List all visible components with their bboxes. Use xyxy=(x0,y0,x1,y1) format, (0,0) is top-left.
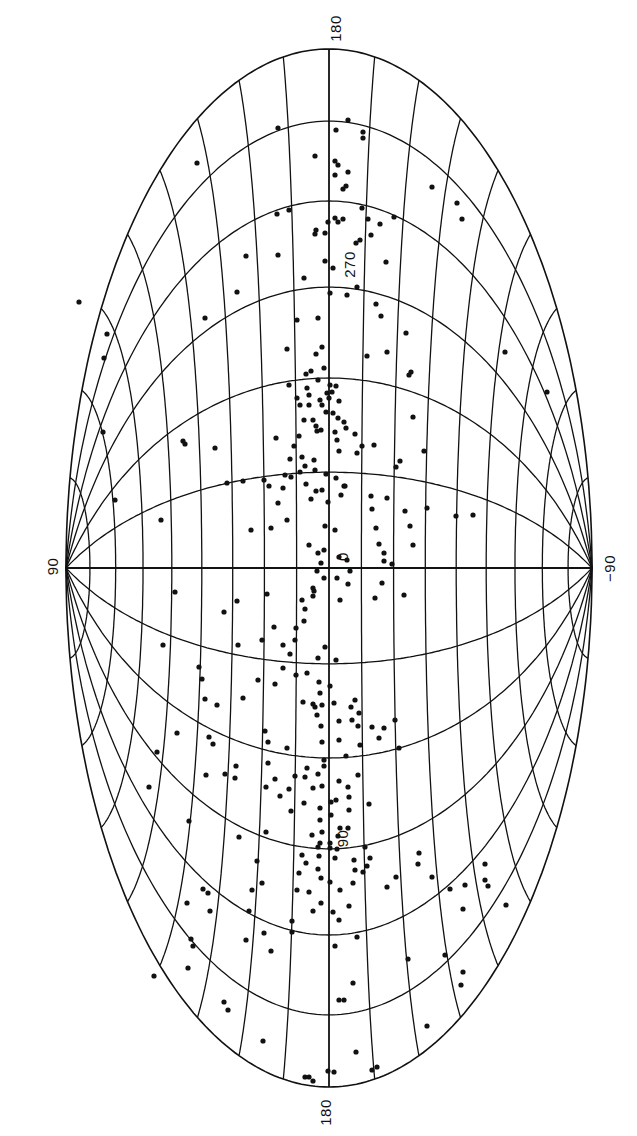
data-point xyxy=(315,550,320,555)
data-point xyxy=(317,817,322,822)
data-point xyxy=(359,443,364,448)
data-point xyxy=(146,784,151,789)
data-point xyxy=(254,858,259,863)
data-point xyxy=(100,429,105,434)
data-point xyxy=(301,800,306,805)
data-point xyxy=(321,547,326,552)
data-point xyxy=(331,700,336,705)
data-point xyxy=(405,956,410,961)
data-point xyxy=(371,442,376,447)
data-point xyxy=(288,474,293,479)
data-point xyxy=(327,683,332,688)
data-point xyxy=(319,402,324,407)
data-point xyxy=(318,875,323,880)
data-point xyxy=(454,200,459,205)
data-point xyxy=(268,948,273,953)
data-point xyxy=(333,127,338,132)
data-point xyxy=(329,389,334,394)
data-point xyxy=(348,704,353,709)
data-point xyxy=(326,395,331,400)
data-point xyxy=(233,763,238,768)
data-point xyxy=(346,794,351,799)
data-point xyxy=(384,884,389,889)
data-point xyxy=(360,869,365,874)
data-point xyxy=(304,670,309,675)
data-point xyxy=(322,523,327,528)
data-point xyxy=(336,718,341,723)
data-point xyxy=(243,253,248,258)
data-point xyxy=(381,725,386,730)
data-point xyxy=(335,415,340,420)
data-point xyxy=(373,525,378,530)
data-point xyxy=(248,527,253,532)
data-point xyxy=(190,943,195,948)
data-point xyxy=(317,690,322,695)
data-point xyxy=(447,886,452,891)
data-point xyxy=(302,463,307,468)
data-point xyxy=(224,480,229,485)
data-point xyxy=(379,580,384,585)
data-point xyxy=(346,903,351,908)
data-point xyxy=(297,402,302,407)
data-point xyxy=(206,734,211,739)
data-point xyxy=(188,936,193,941)
data-point xyxy=(236,834,241,839)
data-point xyxy=(302,774,307,779)
data-point xyxy=(174,730,179,735)
data-point xyxy=(327,879,332,884)
data-point xyxy=(212,445,217,450)
data-point xyxy=(316,853,321,858)
data-point xyxy=(319,344,324,349)
data-point xyxy=(304,765,309,770)
data-point xyxy=(304,385,309,390)
data-point xyxy=(340,186,345,191)
data-point xyxy=(397,458,402,463)
data-point xyxy=(280,642,285,647)
data-point xyxy=(313,227,318,232)
data-point xyxy=(391,214,396,219)
data-point xyxy=(368,493,373,498)
data-point xyxy=(343,753,348,758)
data-point xyxy=(333,657,338,662)
data-point xyxy=(313,423,318,428)
data-point xyxy=(332,429,337,434)
data-point xyxy=(264,591,269,596)
data-point xyxy=(503,902,508,907)
data-point xyxy=(76,299,81,304)
data-point xyxy=(314,428,319,433)
data-point xyxy=(299,852,304,857)
data-point xyxy=(303,481,308,486)
data-point xyxy=(259,880,264,885)
data-point xyxy=(262,728,267,733)
data-point xyxy=(265,739,270,744)
data-point xyxy=(284,517,289,522)
data-point xyxy=(333,475,338,480)
data-point xyxy=(345,169,350,174)
data-point xyxy=(360,129,365,134)
data-point xyxy=(243,937,248,942)
data-point xyxy=(261,477,266,482)
data-point xyxy=(351,857,356,862)
data-point xyxy=(104,331,109,336)
data-point xyxy=(336,398,341,403)
data-point xyxy=(294,317,299,322)
data-point xyxy=(101,355,106,360)
label-top-180: 180 xyxy=(327,15,344,42)
data-point xyxy=(357,237,362,242)
data-point xyxy=(424,505,429,510)
data-point xyxy=(333,797,338,802)
data-point xyxy=(330,410,335,415)
data-point xyxy=(319,739,324,744)
data-point xyxy=(180,438,185,443)
data-point xyxy=(402,508,407,513)
data-point xyxy=(459,216,464,221)
data-point xyxy=(327,290,332,295)
data-point xyxy=(352,431,357,436)
data-point xyxy=(277,793,282,798)
data-point xyxy=(322,230,327,235)
data-point xyxy=(316,679,321,684)
data-point xyxy=(336,778,341,783)
data-point xyxy=(289,929,294,934)
data-point xyxy=(306,889,311,894)
data-point xyxy=(263,829,268,834)
